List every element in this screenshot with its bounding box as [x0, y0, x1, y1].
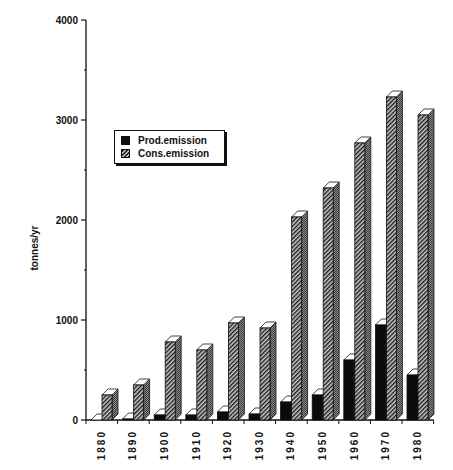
bar-cons-emission — [292, 211, 308, 420]
bar-cons-emission — [260, 322, 276, 420]
y-tick-label: 1000 — [56, 315, 79, 326]
solid-swatch-icon — [121, 136, 130, 145]
x-tick-label: 1980 — [412, 430, 423, 460]
legend: Prod.emission Cons.emission — [114, 130, 225, 164]
hatched-swatch-icon — [121, 149, 130, 158]
y-tick-label: 2000 — [56, 215, 79, 226]
x-tick-label: 1940 — [285, 430, 296, 460]
x-tick-label: 1930 — [254, 430, 265, 460]
bar-cons-emission — [102, 389, 118, 420]
bar-cons-emission — [386, 91, 402, 420]
legend-item-prod: Prod.emission — [121, 134, 224, 147]
legend-item-cons: Cons.emission — [121, 147, 224, 160]
bar-cons-emission — [355, 137, 371, 420]
x-tick-label: 1970 — [380, 430, 391, 460]
x-tick-label: 1890 — [127, 430, 138, 460]
x-tick-label: 1910 — [191, 430, 202, 460]
legend-label: Prod.emission — [138, 135, 207, 146]
y-tick-label: 4000 — [56, 15, 79, 26]
y-tick-label: 3000 — [56, 115, 79, 126]
bar-cons-emission — [134, 379, 150, 420]
bar-cons-emission — [418, 109, 434, 420]
bar-chart: 01000200030004000 1880189019001910192019… — [0, 0, 453, 470]
legend-label: Cons.emission — [138, 148, 209, 159]
x-tick-label: 1880 — [96, 430, 107, 460]
x-tick-label: 1900 — [159, 430, 170, 460]
bar-cons-emission — [323, 182, 339, 420]
y-tick-label: 0 — [72, 415, 78, 426]
x-axis-labels: 1880189019001910192019301940195019601970… — [96, 430, 423, 460]
x-tick-label: 1960 — [349, 430, 360, 460]
y-axis-title: tonnes/yr — [29, 225, 40, 270]
x-tick-label: 1950 — [317, 430, 328, 460]
bar-cons-emission — [228, 317, 244, 420]
x-tick-label: 1920 — [222, 430, 233, 460]
bar-cons-emission — [165, 336, 181, 420]
bar-cons-emission — [197, 344, 213, 420]
